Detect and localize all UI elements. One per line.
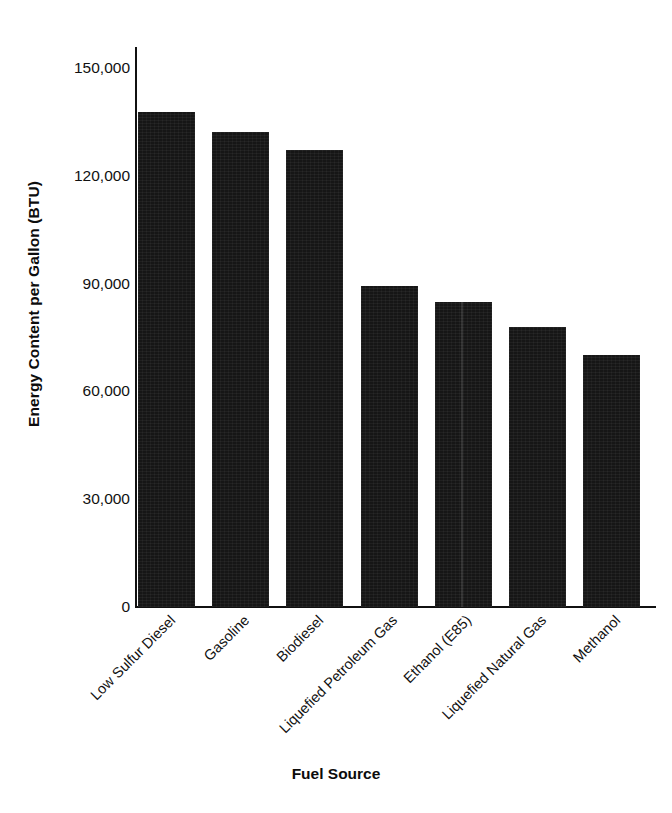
y-axis-tick-label: 60,000 (46, 382, 130, 400)
y-axis-tick-label: 30,000 (46, 490, 130, 508)
plot-area (137, 47, 656, 607)
y-axis-tick-label: 150,000 (46, 59, 130, 77)
x-axis-tick-labels: Low Sulfur DieselGasolineBiodieselLiquef… (137, 612, 656, 742)
bar (361, 286, 418, 607)
x-axis-title: Fuel Source (0, 765, 672, 783)
bar (212, 132, 269, 607)
y-axis-tick-label: 0 (46, 598, 130, 616)
bar (583, 355, 640, 607)
bar (509, 327, 566, 607)
y-axis-tick-label: 120,000 (46, 167, 130, 185)
y-axis-title-text: Energy Content per Gallon (BTU) (25, 181, 43, 427)
bar (435, 302, 492, 607)
bar-chart: Energy Content per Gallon (BTU) 030,0006… (0, 0, 672, 813)
bar (286, 150, 343, 607)
bar (138, 112, 195, 607)
y-axis-tick-label: 90,000 (46, 275, 130, 293)
